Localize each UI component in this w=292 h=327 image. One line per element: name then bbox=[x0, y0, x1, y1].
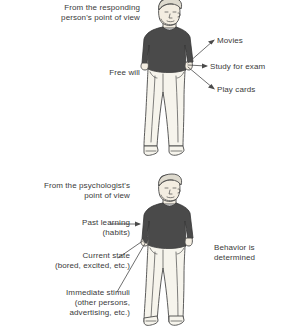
panel-heading-psychologist: From the psychologist's point of view bbox=[4, 181, 130, 201]
panel-heading-responding-person: From the responding person's point of vi… bbox=[8, 3, 140, 23]
person-figure-bottom bbox=[141, 174, 193, 325]
concept-free-will: Free will bbox=[40, 68, 140, 78]
diagram-canvas: .ink { fill: none; stroke: #4a4a4a; stro… bbox=[0, 0, 292, 327]
cause-label-past-learning: Past learning (habits) bbox=[20, 218, 130, 238]
diagram-illustration: .ink { fill: none; stroke: #4a4a4a; stro… bbox=[0, 0, 292, 327]
outcome-label-movies: Movies bbox=[217, 36, 289, 46]
person-figure-top bbox=[141, 0, 193, 155]
outcome-label-play-cards: Play cards bbox=[217, 85, 289, 95]
concept-behavior-is-determined: Behavior is determined bbox=[214, 243, 290, 263]
cause-label-current-state: Current state (bored, excited, etc.) bbox=[6, 251, 130, 271]
cause-label-immediate-stimuli: Immediate stimuli (other persons, advert… bbox=[6, 288, 130, 318]
outcome-label-study-for-exam: Study for exam bbox=[210, 62, 292, 72]
